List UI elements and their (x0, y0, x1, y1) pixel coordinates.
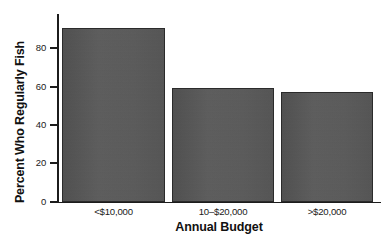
y-tick-label-60: 60 (24, 81, 46, 92)
x-category-label-1: <$10,000 (62, 206, 165, 217)
y-axis-line (57, 14, 59, 203)
y-tick-label-20: 20 (24, 157, 46, 168)
x-category-label-3: >$20,000 (281, 206, 373, 217)
y-axis-title-container: Percent Who Regularly Fish (0, 92, 20, 112)
y-tick-label-80: 80 (24, 42, 46, 53)
bar-chart-figure: Percent Who Regularly Fish 80 60 40 20 0… (0, 0, 386, 242)
bar-lt-10000 (62, 28, 165, 202)
x-category-label-2: 10–$20,000 (172, 206, 274, 217)
bar-gt-20000 (281, 92, 373, 202)
y-tick-label-40: 40 (24, 119, 46, 130)
x-axis-title: Annual Budget (57, 220, 381, 234)
y-tick-label-0: 0 (24, 196, 46, 207)
bar-10-20000 (172, 88, 274, 202)
